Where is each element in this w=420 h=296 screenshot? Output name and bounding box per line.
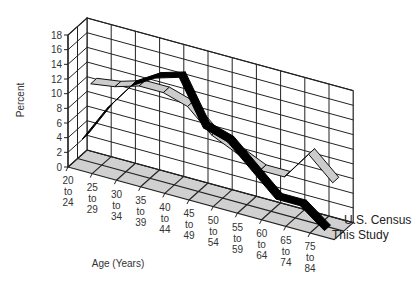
y-tick-label: 4 <box>56 132 62 143</box>
x-category-label: 50to54 <box>208 215 220 248</box>
x-category-label: 45to49 <box>184 208 196 241</box>
y-tick-label: 14 <box>51 59 63 70</box>
chart-3d-line: 024681012141618 20to2425to2930to3435to39… <box>0 0 420 296</box>
y-tick-label: 8 <box>56 103 62 114</box>
y-tick-label: 10 <box>51 88 63 99</box>
y-tick-label: 0 <box>56 162 62 173</box>
y-axis-title: Percent <box>15 83 26 118</box>
x-category-label: 25to29 <box>87 182 99 215</box>
x-axis-title: Age (Years) <box>92 258 144 269</box>
x-category-label: 40to44 <box>159 202 171 235</box>
y-tick-label: 16 <box>51 44 63 55</box>
x-category-label: 30to34 <box>111 189 123 222</box>
x-category-label: 75to84 <box>305 241 317 274</box>
y-axis: 024681012141618 <box>51 30 68 173</box>
x-category-label: 35to39 <box>135 195 147 228</box>
x-category-label: 20to24 <box>63 175 75 208</box>
x-category-label: 65to74 <box>280 235 292 268</box>
legend-this-study: This Study <box>332 228 389 242</box>
legend-us-census: U.S. Census <box>344 213 411 227</box>
y-tick-label: 2 <box>56 147 62 158</box>
x-category-label: 55to59 <box>232 222 244 255</box>
y-tick-label: 6 <box>56 118 62 129</box>
x-category-label: 60to64 <box>256 228 268 261</box>
y-tick-label: 12 <box>51 74 63 85</box>
y-tick-label: 18 <box>51 30 63 41</box>
